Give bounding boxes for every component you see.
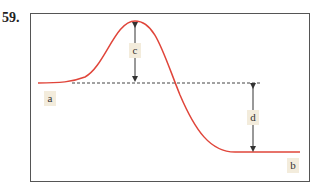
label-b: b (287, 158, 299, 173)
label-d: d (247, 110, 259, 125)
label-a: a (44, 91, 56, 106)
label-c: c (129, 43, 141, 58)
energy-curve (38, 21, 300, 152)
